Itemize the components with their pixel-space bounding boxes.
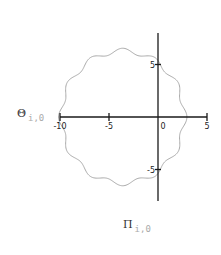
y-axis-label-main: Θ	[17, 107, 26, 120]
x-tick-label: -5	[105, 122, 113, 131]
y-axis-label-subscript: i,0	[28, 113, 44, 123]
y-axis-label: Θi,0	[17, 107, 44, 120]
x-tick-label: -10	[53, 122, 66, 131]
x-tick-label: 0	[160, 122, 165, 131]
x-tick-label: 5	[204, 122, 209, 131]
x-axis-label: Πi,0	[123, 218, 151, 231]
y-tick-label: 5	[150, 61, 155, 70]
x-axis-label-main: Π	[123, 218, 133, 231]
plot-area: -10-5055-5	[0, 0, 221, 255]
x-axis-label-subscript: i,0	[135, 224, 151, 234]
axes: -10-5055-5	[53, 33, 209, 201]
y-tick-label: -5	[147, 166, 155, 175]
